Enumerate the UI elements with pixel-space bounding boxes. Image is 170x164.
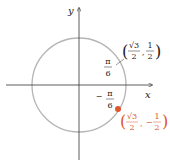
svg-text:6: 6 (107, 101, 112, 110)
svg-text:2: 2 (129, 123, 134, 132)
unit-circle-diagram: x y π 6 ( √3 2 , 1 2 ) − π 6 ( √3 2 , − … (0, 0, 170, 164)
svg-text:,: , (140, 119, 143, 128)
svg-text:2: 2 (147, 52, 152, 61)
svg-text:1: 1 (147, 41, 152, 50)
svg-text:√3: √3 (127, 112, 137, 121)
svg-text:,: , (142, 48, 145, 57)
svg-text:√3: √3 (129, 41, 139, 50)
svg-text:π: π (107, 89, 112, 98)
y-axis-label: y (67, 5, 74, 16)
svg-text:): ) (162, 112, 168, 131)
angle-label-pi-over-6: π 6 (104, 57, 112, 78)
coord-label-lower: ( √3 2 , − 1 2 ) (120, 112, 168, 132)
svg-text:6: 6 (105, 69, 110, 78)
svg-text:(: ( (122, 42, 128, 61)
svg-text:): ) (155, 42, 161, 61)
angle-label-neg-pi-over-6: − π 6 (96, 89, 114, 110)
svg-text:1: 1 (154, 112, 159, 121)
svg-text:−: − (96, 92, 103, 101)
svg-text:π: π (105, 57, 110, 66)
svg-text:2: 2 (154, 123, 159, 132)
svg-text:(: ( (120, 112, 126, 131)
svg-text:2: 2 (131, 52, 136, 61)
svg-text:−: − (146, 118, 153, 127)
x-axis-label: x (145, 89, 151, 100)
coord-label-upper: ( √3 2 , 1 2 ) (122, 41, 161, 61)
